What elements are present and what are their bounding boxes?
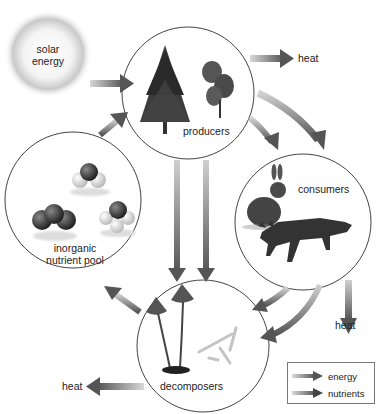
- heat-label-producers: heat: [298, 52, 318, 64]
- arrow-inorganic-to-producers: [100, 112, 128, 135]
- solar-label-line2: energy: [28, 55, 68, 67]
- arrow-producers-to-decomposers-nutrients: [168, 160, 186, 282]
- arrow-decomposers-to-inorganic: [104, 286, 140, 312]
- consumers-label: consumers: [298, 183, 349, 195]
- node-producers: [122, 27, 254, 159]
- arrow-producers-to-consumers-nutrients: [250, 118, 279, 150]
- legend-energy: energy: [292, 369, 357, 383]
- heat-label-decomposers: heat: [62, 380, 82, 392]
- heat-label-consumers: heat: [335, 319, 355, 331]
- inorganic-label-line1: inorganic: [40, 242, 110, 254]
- legend-nutrients: nutrients: [292, 386, 364, 400]
- producers-label: producers: [183, 125, 230, 137]
- arrow-decomposers-to-heat: [86, 377, 144, 396]
- nutrients-arrow-icon: [292, 388, 324, 398]
- inorganic-pool-label: inorganic nutrient pool: [40, 242, 110, 266]
- arrow-producers-to-decomposers-energy: [197, 160, 215, 282]
- legend-nutrients-label: nutrients: [328, 388, 364, 399]
- solar-energy-label: solar energy: [28, 43, 68, 67]
- legend: energy nutrients: [287, 362, 375, 404]
- energy-arrow-icon: [292, 371, 324, 381]
- node-decomposers: [137, 280, 269, 412]
- legend-energy-label: energy: [328, 371, 357, 382]
- decomposers-label: decomposers: [160, 380, 223, 392]
- inorganic-label-line2: nutrient pool: [40, 254, 110, 266]
- arrow-producers-to-heat: [250, 49, 294, 68]
- ecosystem-diagram: solar energy heat producers consumers in…: [0, 0, 379, 414]
- node-consumers: [235, 154, 371, 290]
- arrow-consumers-to-decomposers-lower: [260, 285, 320, 343]
- arrow-consumers-to-decomposers-upper: [252, 288, 288, 312]
- solar-label-line1: solar: [28, 43, 68, 55]
